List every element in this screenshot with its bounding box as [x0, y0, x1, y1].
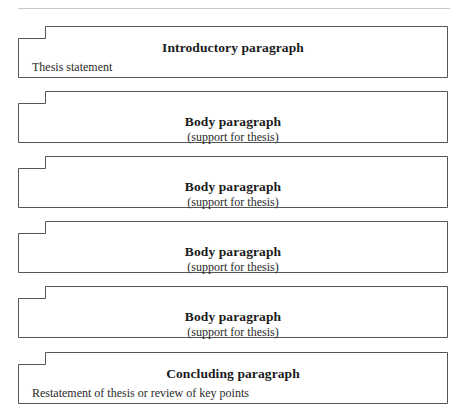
paragraph-box-body-5: Body paragraph(support for thesis) — [18, 286, 448, 338]
paragraph-box-concl-6: Concluding paragraphRestatement of thesi… — [18, 352, 448, 404]
top-divider-rule — [18, 8, 450, 9]
box-subtitle: (support for thesis) — [32, 261, 434, 274]
paragraph-box-body-3: Body paragraph(support for thesis) — [18, 156, 448, 208]
box-content: Body paragraph(support for thesis) — [18, 286, 448, 338]
box-title: Introductory paragraph — [32, 41, 434, 56]
diagram-canvas: Introductory paragraphThesis statementBo… — [0, 0, 464, 413]
box-content: Introductory paragraphThesis statement — [18, 26, 448, 78]
box-content: Body paragraph(support for thesis) — [18, 221, 448, 273]
box-subtitle: (support for thesis) — [32, 326, 434, 339]
paragraph-box-body-2: Body paragraph(support for thesis) — [18, 91, 448, 143]
box-subtitle: Thesis statement — [32, 61, 434, 74]
box-content: Concluding paragraphRestatement of thesi… — [18, 352, 448, 404]
box-subtitle: Restatement of thesis or review of key p… — [32, 387, 434, 400]
box-title: Concluding paragraph — [32, 367, 434, 382]
paragraph-box-body-4: Body paragraph(support for thesis) — [18, 221, 448, 273]
paragraph-box-intro-1: Introductory paragraphThesis statement — [18, 26, 448, 78]
box-title: Body paragraph — [32, 245, 434, 260]
box-subtitle: (support for thesis) — [32, 131, 434, 144]
box-title: Body paragraph — [32, 180, 434, 195]
box-title: Body paragraph — [32, 115, 434, 130]
box-content: Body paragraph(support for thesis) — [18, 91, 448, 143]
box-subtitle: (support for thesis) — [32, 196, 434, 209]
box-content: Body paragraph(support for thesis) — [18, 156, 448, 208]
box-title: Body paragraph — [32, 310, 434, 325]
